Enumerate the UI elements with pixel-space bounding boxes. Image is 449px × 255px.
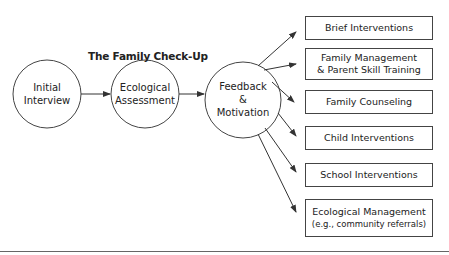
outcome-label: School Interventions — [320, 169, 418, 181]
outcome-label: Brief Interventions — [325, 22, 413, 34]
stage-label-line: & — [205, 93, 281, 106]
outcome-label: & Parent Skill Training — [317, 64, 421, 76]
stage-label-ecological-assessment: Ecological Assessment — [111, 81, 179, 107]
outcome-box-child-interventions: Child Interventions — [305, 126, 433, 150]
outcome-label: Family Counseling — [326, 96, 412, 108]
bottom-divider — [0, 251, 449, 252]
stage-label-line: Assessment — [111, 94, 179, 107]
arrow-to-family-management — [264, 64, 296, 70]
outcome-label: Child Interventions — [324, 132, 414, 144]
stage-label-line: Ecological — [111, 81, 179, 94]
stage-label-line: Interview — [13, 94, 81, 107]
outcome-box-school-interventions: School Interventions — [305, 163, 433, 187]
outcome-box-brief-interventions: Brief Interventions — [305, 16, 433, 40]
outcome-label: Family Management — [321, 52, 417, 64]
stage-label-line: Feedback — [205, 80, 281, 93]
stage-label-initial-interview: Initial Interview — [13, 81, 81, 107]
stage-label-line: Motivation — [205, 106, 281, 119]
outcome-box-family-management: Family Management & Parent Skill Trainin… — [305, 48, 433, 80]
outcome-box-family-counseling: Family Counseling — [305, 90, 433, 114]
arrow-to-school — [265, 128, 296, 172]
stage-label-feedback-motivation: Feedback & Motivation — [205, 80, 281, 119]
outcome-label: Ecological Management — [312, 206, 425, 218]
outcome-label: (e.g., community referrals) — [312, 218, 426, 230]
arrow-to-brief — [258, 32, 296, 66]
stage-label-line: Initial — [13, 81, 81, 94]
diagram-title: The Family Check-Up — [88, 50, 208, 62]
outcome-box-ecological-management: Ecological Management (e.g., community r… — [305, 199, 433, 237]
